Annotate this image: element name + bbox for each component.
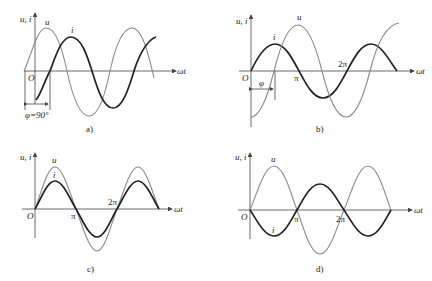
tick-2pi: 2π [338,59,348,69]
origin-label: O [27,211,34,221]
x-axis-label: ωt [177,66,186,76]
tick-pi: π [294,73,299,83]
phase-label: φ [259,78,264,88]
current-curve-i [36,37,156,108]
tick-pi: π [294,214,299,224]
u-label: u [271,154,276,164]
origin-label: O [241,212,248,222]
u-label: u [52,155,57,165]
x-axis-label: ωt [416,66,425,76]
i-label: i [53,170,56,180]
panel-a: u, i u i O ωt φ=90° a) [20,13,186,134]
tick-2pi: 2π [336,214,346,224]
origin-label: O [28,73,35,83]
caption-b: b) [316,124,324,134]
waveform-diagrams: u, i u i O ωt φ=90° a) φ u, i u i O π 2π… [0,0,432,281]
y-axis-label: u, i [20,152,32,162]
phase-label: φ=90° [25,110,49,120]
u-label: u [297,12,302,22]
x-axis-label: ωt [414,205,423,215]
y-axis-label: u, i [235,152,247,162]
panel-d: u, i u i O π 2π ωt d) [235,152,423,274]
i-label: i [272,225,275,235]
panel-c: u, i u i O π 2π ωt c) [20,152,183,274]
y-axis-label: u, i [20,14,32,24]
caption-a: a) [86,124,93,134]
u-label: u [45,17,50,27]
tick-pi: π [71,211,76,221]
origin-label: O [242,73,249,83]
tick-2pi: 2π [108,197,118,207]
x-axis-label: ωt [174,204,183,214]
y-axis-label: u, i [236,16,248,26]
caption-c: c) [87,264,94,274]
panel-b: φ u, i u i O π 2π ωt b) [236,12,425,134]
i-label: i [71,25,74,35]
i-label: i [273,32,276,42]
caption-d: d) [316,264,324,274]
